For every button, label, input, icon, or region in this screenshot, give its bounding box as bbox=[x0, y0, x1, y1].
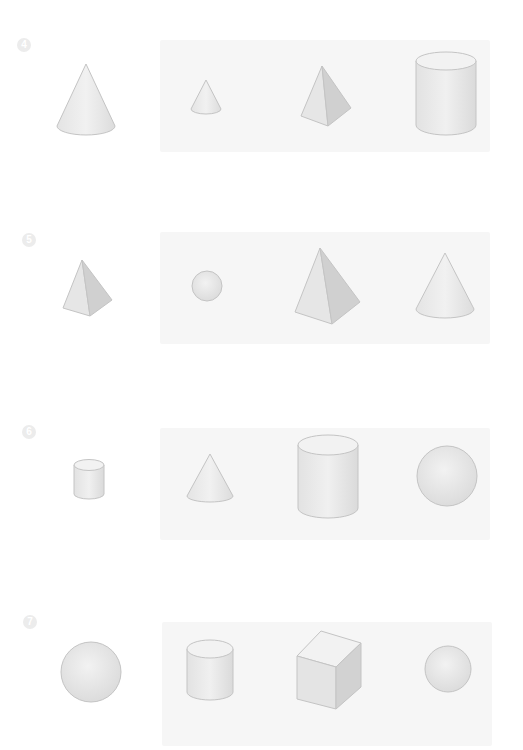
cylinder-option[interactable] bbox=[414, 51, 478, 137]
small-cylinder-shape bbox=[72, 458, 106, 502]
large-cylinder-option[interactable] bbox=[296, 434, 360, 520]
pyramid-shape bbox=[62, 258, 114, 320]
pyramid-option[interactable] bbox=[300, 64, 352, 130]
small-cone-option[interactable] bbox=[190, 78, 222, 116]
cone-shape bbox=[55, 62, 117, 138]
exercise-number-badge: 5 bbox=[22, 233, 36, 247]
cylinder-option[interactable] bbox=[185, 638, 235, 704]
small-sphere-option[interactable] bbox=[424, 644, 472, 694]
exercise-number-badge: 4 bbox=[17, 38, 31, 52]
cube-option[interactable] bbox=[295, 629, 363, 711]
cone-option[interactable] bbox=[185, 452, 235, 506]
large-pyramid-option[interactable] bbox=[294, 246, 362, 328]
exercise-number-badge: 6 bbox=[22, 425, 36, 439]
sphere-option[interactable] bbox=[191, 270, 223, 302]
exercise-number-badge: 7 bbox=[23, 615, 37, 629]
cone-option[interactable] bbox=[414, 251, 476, 323]
sphere-option[interactable] bbox=[415, 444, 479, 508]
sphere-shape bbox=[59, 639, 123, 705]
